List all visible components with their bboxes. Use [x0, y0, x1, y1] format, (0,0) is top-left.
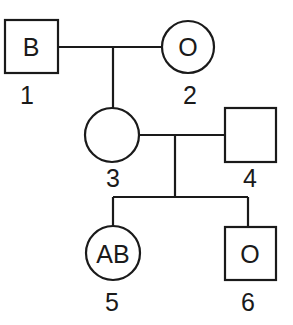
- label-4: 4: [243, 164, 257, 192]
- blood-type-6: O: [240, 240, 259, 268]
- blood-type-1: B: [23, 33, 40, 61]
- label-5: 5: [105, 288, 119, 316]
- label-1: 1: [20, 81, 34, 109]
- label-6: 6: [241, 288, 255, 316]
- individual-3: 3: [85, 108, 139, 192]
- female-circle-3: [85, 108, 139, 162]
- blood-type-2: O: [178, 33, 197, 61]
- pedigree-diagram: B 1 O 2 3 4 AB 5 O 6: [0, 0, 293, 325]
- male-square-4: [225, 108, 276, 162]
- individual-6: O 6: [225, 227, 276, 316]
- blood-type-5: AB: [96, 240, 129, 268]
- label-3: 3: [106, 164, 120, 192]
- individual-4: 4: [225, 108, 276, 192]
- individual-5: AB 5: [86, 226, 140, 316]
- individual-2: O 2: [162, 21, 214, 109]
- individual-1: B 1: [5, 20, 58, 109]
- label-2: 2: [183, 81, 197, 109]
